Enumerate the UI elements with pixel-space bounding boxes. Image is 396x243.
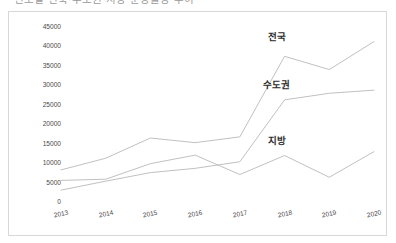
x-axis-tick-label: 2019 — [321, 209, 337, 219]
chart-screenshot: 연도별 전국·수도권·지방 분양물량 추이 050001000015000200… — [0, 0, 396, 243]
x-axis-tick-label: 2015 — [143, 209, 159, 219]
chart-frame: 0500010000150002000025000300003500040000… — [8, 11, 387, 236]
page-title: 연도별 전국·수도권·지방 분양물량 추이 — [14, 0, 194, 6]
x-axis-tick-labels: 20132014201520162017201820192020 — [9, 12, 388, 237]
series-label-전국: 전국 — [268, 29, 286, 43]
x-axis-tick-label: 2014 — [98, 209, 114, 219]
x-axis-tick-label: 2018 — [277, 209, 293, 219]
x-axis-tick-label: 2013 — [53, 209, 69, 219]
x-axis-tick-label: 2017 — [232, 209, 248, 219]
plot-area: 0500010000150002000025000300003500040000… — [9, 12, 388, 237]
x-axis-tick-label: 2020 — [366, 209, 382, 219]
series-label-수도권: 수도권 — [263, 77, 290, 91]
series-label-지방: 지방 — [268, 133, 286, 147]
x-axis-tick-label: 2016 — [187, 209, 203, 219]
chart-title-strip: 연도별 전국·수도권·지방 분양물량 추이 — [0, 0, 396, 10]
